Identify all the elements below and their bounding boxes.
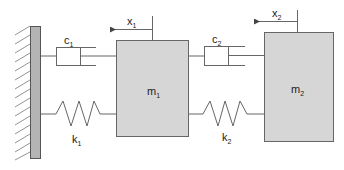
spring-mass-damper-diagram: c1 k1 m1 x1 c2 k2 m2 x2 <box>0 0 344 170</box>
fixed-wall <box>31 27 41 159</box>
damper-c2-label: c2 <box>212 33 222 47</box>
displacement-x1-label: x1 <box>127 15 137 29</box>
damper-c2 <box>189 47 264 66</box>
wall-hatching <box>15 26 30 160</box>
damper-c1 <box>41 48 116 66</box>
spring-k1 <box>41 101 116 126</box>
spring-k2 <box>189 101 264 126</box>
spring-k1-label: k1 <box>72 133 82 147</box>
spring-k2-label: k2 <box>222 131 232 145</box>
damper-c1-label: c1 <box>64 34 74 48</box>
displacement-x2-label: x2 <box>272 7 282 21</box>
